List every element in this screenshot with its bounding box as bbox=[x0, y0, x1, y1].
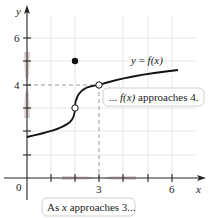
origin-label: 0 bbox=[16, 181, 22, 193]
x-tick-3-label: 3 bbox=[96, 183, 102, 195]
open-point-x3 bbox=[96, 82, 102, 88]
x-tick-6-label: 6 bbox=[169, 183, 175, 195]
curve-label: y = f(x) bbox=[130, 54, 163, 67]
open-point-x2 bbox=[72, 105, 78, 111]
y-tick-6-label: 6 bbox=[14, 32, 20, 44]
approach-arrows bbox=[24, 52, 136, 180]
limit-diagram: y x 0 3 6 4 6 y = f(x) ... f(x) approach… bbox=[0, 0, 210, 218]
x-axis-label: x bbox=[195, 183, 201, 195]
svg-text:... f(x) approaches 4.: ... f(x) approaches 4. bbox=[109, 91, 199, 104]
filled-point-x2 bbox=[72, 58, 78, 64]
annotation-x-approaches-3: As x approaches 3... bbox=[42, 198, 136, 216]
svg-text:As x approaches 3...: As x approaches 3... bbox=[47, 201, 136, 213]
y-tick-4-label: 4 bbox=[14, 79, 20, 91]
y-axis-label: y bbox=[15, 5, 21, 17]
annotation-fx-approaches-4: ... f(x) approaches 4. bbox=[103, 88, 204, 106]
